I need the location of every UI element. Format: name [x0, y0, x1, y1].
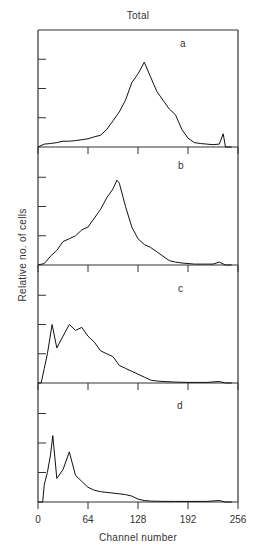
- x-tick-label-192: 192: [180, 514, 197, 525]
- panel-label-a: a: [180, 38, 186, 49]
- histogram-curve-a: [38, 62, 232, 147]
- x-tick-label-64: 64: [82, 514, 93, 525]
- x-tick-label-0: 0: [35, 514, 41, 525]
- panel-label-b: b: [178, 160, 184, 171]
- plot-area: [0, 0, 258, 557]
- histogram-curve-c: [38, 325, 232, 384]
- x-axis-label: Channel number: [38, 532, 238, 543]
- histogram-figure: Total Relative no. of cells a b c d 0 64…: [0, 0, 258, 557]
- panel-label-c: c: [178, 283, 183, 294]
- x-tick-label-256: 256: [230, 514, 247, 525]
- x-tick-label-128: 128: [130, 514, 147, 525]
- histogram-curve-d: [38, 436, 232, 502]
- histogram-curve-b: [38, 180, 232, 265]
- panel-label-d: d: [177, 400, 183, 411]
